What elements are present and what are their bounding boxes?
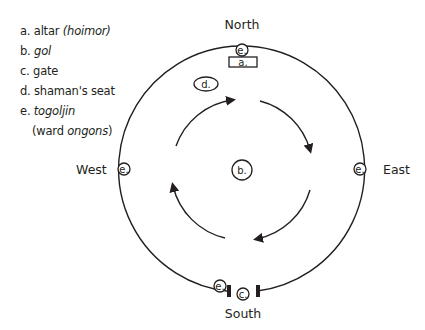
label-south: South <box>225 306 261 321</box>
svg-text:e.: e. <box>355 164 364 175</box>
togoljin-marker-south: e. <box>214 280 226 292</box>
flow-arrow-lower-right <box>257 190 310 239</box>
flow-arrow-upper-right <box>260 101 310 150</box>
svg-text:d.: d. <box>201 79 211 90</box>
svg-text:c.: c. <box>239 289 248 300</box>
svg-text:a.: a. <box>238 57 247 68</box>
svg-text:e.: e. <box>119 164 128 175</box>
gate-marker: c. <box>237 288 249 300</box>
togoljin-marker-east: e. <box>354 163 366 175</box>
gate-post-right <box>256 285 260 297</box>
label-west: West <box>76 162 107 177</box>
flow-arrow-upper-left <box>176 100 232 146</box>
togoljin-marker-north: e. <box>236 44 248 56</box>
altar-marker: a. <box>229 57 257 68</box>
label-north: North <box>225 17 260 32</box>
shaman-seat-marker: d. <box>194 77 218 91</box>
svg-text:b.: b. <box>237 165 247 176</box>
yurt-diagram: North South West East e. e. e. e. a. d. … <box>0 0 425 330</box>
togoljin-marker-west: e. <box>118 163 130 175</box>
svg-text:e.: e. <box>237 45 246 56</box>
svg-text:e.: e. <box>215 281 224 292</box>
label-east: East <box>383 162 410 177</box>
flow-arrow-lower-left <box>173 186 225 238</box>
gate-post-left <box>227 285 231 297</box>
gol-marker: b. <box>232 160 252 180</box>
